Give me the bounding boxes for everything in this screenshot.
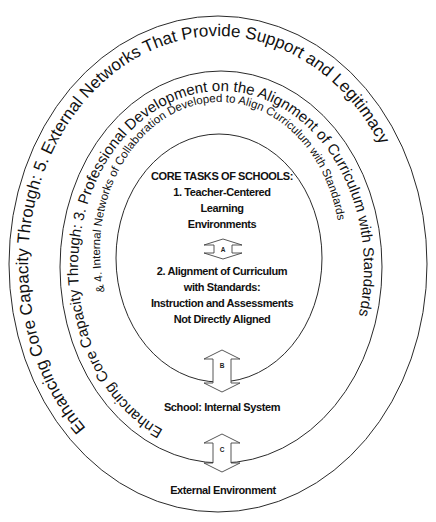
arrow-c-label: C	[220, 446, 225, 453]
double-arrow-b-icon: B	[204, 350, 240, 392]
task1-line2: Learning	[200, 202, 243, 214]
nested-capacity-diagram: Enhancing Core Capacity Through: 5. Exte…	[0, 0, 436, 522]
task2-line1: 2. Alignment of Curriculum	[157, 265, 288, 277]
task2-line4: Not Directly Aligned	[174, 313, 271, 325]
internal-system-label: School: Internal System	[164, 401, 281, 413]
double-arrow-a-icon: A	[204, 239, 242, 259]
task1-line3: Environments	[188, 218, 257, 230]
task2-line2: with Standards:	[183, 281, 261, 293]
external-environment-label: External Environment	[170, 484, 276, 496]
arrow-b-label: B	[220, 362, 225, 369]
arrow-a-label: A	[221, 246, 226, 253]
core-title: CORE TASKS OF SCHOOLS:	[151, 170, 293, 182]
task2-line3: Instruction and Assessments	[151, 297, 294, 309]
task1-line1: 1. Teacher-Centered	[173, 186, 270, 198]
double-arrow-c-icon: C	[204, 434, 240, 472]
